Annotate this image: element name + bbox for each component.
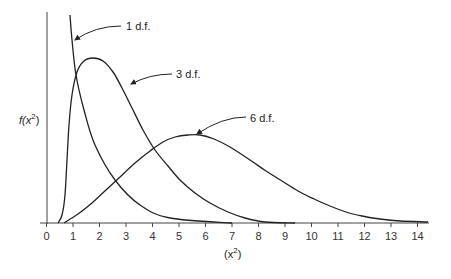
- label-3-df: 3 d.f.: [176, 68, 200, 80]
- x-tick-label: 4: [149, 230, 155, 242]
- arrow-6-df: [197, 117, 246, 134]
- x-tick-label: 6: [202, 230, 208, 242]
- x-tick-label: 3: [123, 230, 129, 242]
- chi-square-chart: 01234567891011121314 1 d.f. 3 d.f. 6 d.f…: [0, 0, 451, 279]
- x-tick-label: 9: [282, 230, 288, 242]
- x-tick-label: 5: [176, 230, 182, 242]
- x-tick-label: 1: [70, 230, 76, 242]
- x-tick-label: 12: [358, 230, 370, 242]
- arrow-1-df: [75, 26, 121, 40]
- x-tick-label: 14: [411, 230, 423, 242]
- arrow-3-df: [131, 74, 172, 84]
- x-tick-label: 8: [255, 230, 261, 242]
- curve-6-df: [64, 135, 428, 223]
- x-tick-label: 0: [43, 230, 49, 242]
- curve-1-df: [70, 15, 232, 223]
- x-axis-label: (x2): [224, 246, 241, 260]
- x-axis-ticks: [47, 223, 418, 227]
- x-axis-tick-labels: 01234567891011121314: [43, 230, 423, 242]
- y-axis-label: f(x2): [19, 112, 39, 126]
- label-1-df: 1 d.f.: [126, 20, 150, 32]
- x-tick-label: 13: [385, 230, 397, 242]
- x-tick-label: 11: [332, 230, 343, 242]
- x-tick-label: 7: [229, 230, 235, 242]
- x-tick-label: 2: [96, 230, 102, 242]
- x-tick-label: 10: [305, 230, 317, 242]
- label-6-df: 6 d.f.: [250, 112, 274, 124]
